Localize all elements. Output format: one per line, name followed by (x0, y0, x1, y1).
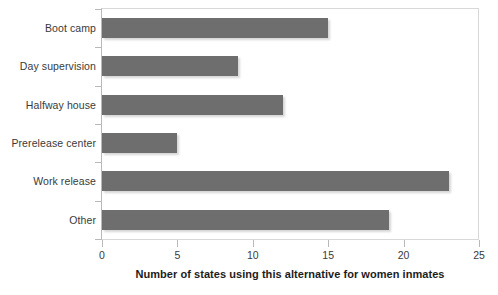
category-label: Halfway house (26, 99, 96, 111)
category-label: Day supervision (20, 60, 96, 72)
category-label: Other (69, 214, 96, 226)
x-axis-tick-label: 10 (247, 249, 259, 261)
x-axis-tick (328, 240, 329, 247)
bar-boot-camp (102, 18, 328, 38)
y-axis-tick (95, 162, 102, 163)
bar-day-supervision (102, 56, 238, 76)
x-axis-title: Number of states using this alternative … (101, 268, 479, 280)
bar-work-release (102, 171, 449, 191)
bar-chart: Boot camp Day supervision Halfway house … (0, 0, 498, 295)
category-label: Prerelease center (11, 137, 96, 149)
x-axis-tick-label: 5 (174, 249, 180, 261)
category-label: Work release (33, 175, 96, 187)
y-axis-tick (95, 9, 102, 10)
category-axis-labels: Boot camp Day supervision Halfway house … (0, 9, 96, 239)
y-axis-tick (95, 47, 102, 48)
x-axis-tick-label: 20 (398, 249, 410, 261)
category-label-row: Work release (0, 162, 96, 200)
category-label-row: Prerelease center (0, 124, 96, 162)
bar-halfway-house (102, 95, 283, 115)
bars-layer (102, 9, 479, 239)
x-axis-tick-labels: 0510152025 (0, 249, 498, 265)
x-axis-tick (253, 240, 254, 247)
y-axis-ticks (95, 9, 102, 239)
x-axis-tick (177, 240, 178, 247)
category-label-row: Other (0, 201, 96, 239)
category-label-row: Day supervision (0, 47, 96, 85)
x-axis-tick-label: 25 (473, 249, 485, 261)
category-label-row: Halfway house (0, 86, 96, 124)
category-label-row: Boot camp (0, 9, 96, 47)
bar-row (102, 124, 479, 162)
category-label: Boot camp (45, 22, 96, 34)
y-axis-tick (95, 201, 102, 202)
bar-row (102, 86, 479, 124)
x-axis-tick-label: 0 (99, 249, 105, 261)
x-axis-tick (404, 240, 405, 247)
bar-row (102, 47, 479, 85)
y-axis-tick (95, 86, 102, 87)
bar-row (102, 162, 479, 200)
x-axis-tick (479, 240, 480, 247)
bar-row (102, 9, 479, 47)
bar-row (102, 201, 479, 239)
x-axis-tick (102, 240, 103, 247)
y-axis-tick (95, 124, 102, 125)
x-axis-ticks (0, 240, 498, 248)
x-axis-tick-label: 15 (322, 249, 334, 261)
bar-other (102, 210, 389, 230)
bar-prerelease-center (102, 133, 177, 153)
